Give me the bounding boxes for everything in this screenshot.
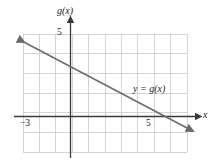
graph-canvas (0, 0, 216, 164)
x-axis-name-label: x (203, 110, 207, 120)
x-axis-tick-label-5: 5 (146, 119, 151, 129)
y-axis-name-label: g(x) (57, 6, 73, 16)
y-axis-tick-label-5: 5 (57, 28, 62, 38)
graph-figure: 5 −3 5 g(x) x y = g(x) (0, 0, 216, 164)
x-axis-tick-label-negative-3: −3 (20, 119, 30, 129)
function-curve-label: y = g(x) (133, 84, 165, 94)
